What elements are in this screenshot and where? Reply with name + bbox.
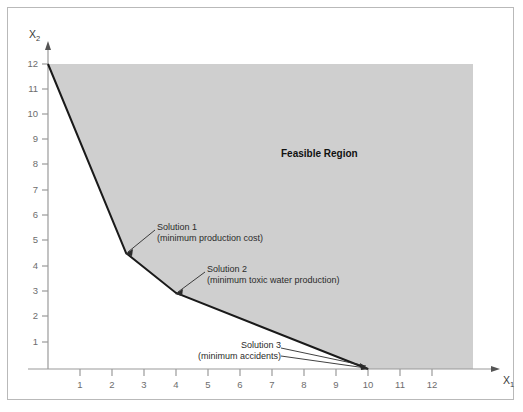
- figure-page: 12 11 10 9 8 7 6 5 4 3 2 1 1 2 3 4 5 6 7…: [0, 0, 523, 412]
- x-tick-label-7: 7: [264, 379, 280, 390]
- x-tick-label-4: 4: [168, 379, 184, 390]
- x-axis-title-subscript: 1: [510, 380, 514, 389]
- y-tick-label-10: 10: [22, 108, 38, 119]
- solution3-annotation: Solution 3 (minimum accidents): [131, 340, 281, 362]
- y-tick-label-1: 1: [22, 336, 38, 347]
- y-tick-label-11: 11: [22, 83, 38, 94]
- x-tick-label-8: 8: [296, 379, 312, 390]
- feasible-region-label: Feasible Region: [281, 148, 358, 159]
- x-axis-title-text: X: [503, 374, 510, 386]
- x-tick-label-2: 2: [104, 379, 120, 390]
- y-axis-arrowhead: [45, 41, 51, 50]
- y-tick-label-5: 5: [22, 234, 38, 245]
- y-tick-label-4: 4: [22, 260, 38, 271]
- x-tick-label-1: 1: [72, 379, 88, 390]
- x-tick-label-9: 9: [328, 379, 344, 390]
- y-tick-label-3: 3: [22, 285, 38, 296]
- x-tick-label-11: 11: [392, 379, 408, 390]
- solution3-annotation-line2: (minimum accidents): [131, 351, 281, 362]
- x-axis-title: X1: [503, 374, 514, 389]
- x-axis-arrowhead: [491, 366, 500, 372]
- y-tick-label-7: 7: [22, 184, 38, 195]
- solution1-annotation-line1: Solution 1: [157, 222, 263, 233]
- solution1-annotation: Solution 1 (minimum production cost): [157, 222, 263, 244]
- solution3-annotation-line1: Solution 3: [131, 340, 281, 351]
- y-axis-title-text: X: [29, 28, 36, 40]
- x-tick-label-6: 6: [232, 379, 248, 390]
- x-tick-label-3: 3: [136, 379, 152, 390]
- y-tick-label-8: 8: [22, 158, 38, 169]
- y-tick-label-12: 12: [22, 58, 38, 69]
- x-tick-label-12: 12: [424, 379, 440, 390]
- solution2-annotation-line2: (minimum toxic water production): [207, 275, 340, 286]
- x-axis-ticks: [80, 369, 432, 376]
- y-axis-ticks: [42, 64, 48, 342]
- x-tick-label-5: 5: [200, 379, 216, 390]
- y-tick-label-2: 2: [22, 310, 38, 321]
- solution2-annotation: Solution 2 (minimum toxic water producti…: [207, 264, 340, 286]
- y-tick-label-9: 9: [22, 133, 38, 144]
- y-axis-title-subscript: 2: [36, 34, 40, 43]
- y-axis-title: X2: [29, 28, 40, 43]
- solution2-annotation-line1: Solution 2: [207, 264, 340, 275]
- x-tick-label-10: 10: [360, 379, 376, 390]
- y-tick-label-6: 6: [22, 209, 38, 220]
- solution1-annotation-line2: (minimum production cost): [157, 233, 263, 244]
